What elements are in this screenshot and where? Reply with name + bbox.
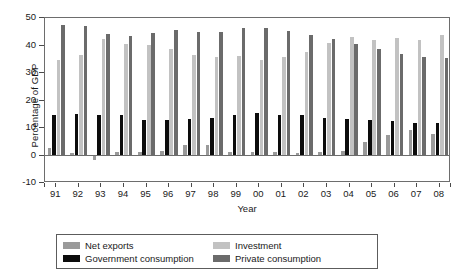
x-tick [416,183,417,187]
bar [84,26,88,155]
bar [52,115,56,156]
bar-group [203,18,226,181]
bar [142,120,146,155]
bar [391,121,395,156]
x-tick [191,183,192,187]
bar [377,49,381,156]
bars-container [45,18,449,181]
legend-label: Private consumption [235,253,321,264]
bar [327,43,331,156]
y-tick-label: 0 [6,150,36,160]
bar-group [338,18,361,181]
bar [242,28,246,155]
legend-swatch-icon [213,242,230,249]
legend-item[interactable]: Government consumption [63,253,213,264]
bar [332,39,336,155]
x-tick [326,183,327,187]
bar [354,44,358,156]
bar-group [158,18,181,181]
bar [287,31,291,156]
bar-group [68,18,91,181]
zero-baseline [44,155,450,156]
y-tick-label: -10 [6,177,36,187]
bar-group [406,18,429,181]
bar-group [383,18,406,181]
legend-item[interactable]: Net exports [63,240,213,251]
legend-label: Government consumption [85,253,194,264]
bar [124,44,128,155]
bar [323,118,327,155]
bar [305,52,309,156]
bar [409,130,413,155]
bar [197,32,201,155]
bar [147,45,151,155]
plot-area [44,17,450,182]
x-tick [236,183,237,187]
bar [165,120,169,156]
bar [418,40,422,156]
x-tick [281,183,282,187]
bar [350,37,354,155]
bar [57,60,61,156]
bar [210,118,214,156]
legend-swatch-icon [63,255,80,262]
bar [215,57,219,156]
bar [102,39,106,156]
bar-group [316,18,339,181]
bar [188,119,192,155]
bar [278,115,282,156]
bar [169,49,173,155]
chart-legend: Net exportsInvestmentGovernment consumpt… [56,234,378,269]
bar [233,115,237,155]
bar-group [135,18,158,181]
bar-group [361,18,384,181]
bar [79,55,83,155]
bar-group [113,18,136,181]
bar [440,35,444,155]
x-tick [371,183,372,187]
bar-group [293,18,316,181]
x-tick [439,183,440,187]
bar [422,57,426,156]
bar [431,134,435,155]
legend-item[interactable]: Private consumption [213,253,373,264]
y-tick-label: 20 [6,95,36,105]
x-tick [78,183,79,187]
bar-group [90,18,113,181]
x-tick [303,183,304,187]
bar-group [225,18,248,181]
bar [436,123,440,156]
legend-label: Investment [235,240,281,251]
bar [445,58,449,155]
bar-group [271,18,294,181]
legend-item[interactable]: Investment [213,240,373,251]
bar [260,60,264,156]
y-tick-label: 50 [6,12,36,22]
bar [151,33,155,156]
bar-chart: Percentage of GDP -1001020304050 9192939… [0,0,459,280]
y-tick-label: 30 [6,67,36,77]
bar [282,57,286,156]
bar [174,30,178,155]
bar [75,114,79,155]
bar [219,32,223,156]
x-tick [258,183,259,187]
bar [395,38,399,155]
bar-group [45,18,68,181]
x-tick [349,183,350,187]
bar [300,115,304,155]
y-tick-label: 40 [6,40,36,50]
bar [237,56,241,156]
x-tick [100,183,101,187]
legend-swatch-icon [213,255,230,262]
bar [372,40,376,156]
bar [309,35,313,156]
bar [345,119,349,155]
bar [106,34,110,156]
x-axis-title: Year [44,203,450,214]
x-tick [146,183,147,187]
bar [363,142,367,156]
bar [61,25,65,156]
bar [93,156,97,160]
bar [400,54,404,155]
